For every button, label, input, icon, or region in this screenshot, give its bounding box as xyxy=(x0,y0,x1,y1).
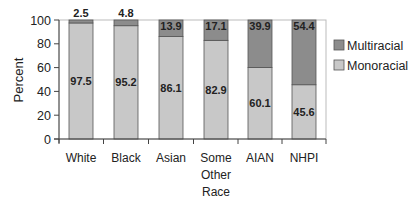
value-label-multiracial: 54.4 xyxy=(293,20,315,32)
y-tick-label: 20 xyxy=(37,109,51,123)
x-tick-label: AIAN xyxy=(246,151,274,165)
legend-label: Monoracial xyxy=(347,59,408,73)
value-label-monoracial: 45.6 xyxy=(293,106,314,118)
y-tick-label: 0 xyxy=(44,133,51,147)
bars-group: 97.52.595.24.886.113.982.917.160.139.945… xyxy=(69,7,316,139)
value-label-multiracial: 17.1 xyxy=(205,20,226,32)
legend-item-multiracial: Multiracial xyxy=(334,39,403,53)
plot-frame xyxy=(59,20,326,139)
y-axis-label: Percent xyxy=(11,57,26,102)
legend-swatch xyxy=(334,40,344,50)
bar-nhpi: 45.654.4 xyxy=(292,20,316,139)
bar-aian: 60.139.9 xyxy=(248,20,272,139)
x-tick-label: SomeOtherRace xyxy=(200,151,232,199)
legend: MultiracialMonoracial xyxy=(334,39,408,73)
legend-label: Multiracial xyxy=(347,39,403,53)
bar-white: 97.52.5 xyxy=(69,7,93,139)
y-tick-label: 60 xyxy=(37,61,51,75)
y-tick-label: 100 xyxy=(30,14,51,28)
value-label-monoracial: 97.5 xyxy=(70,75,91,87)
value-label-monoracial: 86.1 xyxy=(160,82,181,94)
y-tick-label: 40 xyxy=(37,85,51,99)
x-axis: WhiteBlackAsianSomeOtherRaceAIANNHPI xyxy=(54,139,326,199)
x-tick-label: White xyxy=(66,151,97,165)
y-tick-label: 80 xyxy=(37,37,51,51)
bar-black: 95.24.8 xyxy=(114,7,138,139)
bar-some-other-race: 82.917.1 xyxy=(204,20,228,139)
segment-multiracial xyxy=(114,20,138,26)
value-label-multiracial: 4.8 xyxy=(118,7,133,19)
x-tick-label: NHPI xyxy=(290,151,319,165)
value-label-monoracial: 60.1 xyxy=(249,97,270,109)
value-label-multiracial: 39.9 xyxy=(249,20,270,32)
y-axis: 020406080100 xyxy=(30,14,59,147)
plot-border xyxy=(59,20,326,139)
stacked-bar-chart: 97.52.595.24.886.113.982.917.160.139.945… xyxy=(0,0,412,204)
bar-asian: 86.113.9 xyxy=(159,20,183,139)
value-label-monoracial: 95.2 xyxy=(115,76,136,88)
value-label-multiracial: 2.5 xyxy=(73,7,88,19)
x-tick-label: Asian xyxy=(156,151,186,165)
legend-swatch xyxy=(334,60,344,70)
segment-multiracial xyxy=(69,20,93,23)
value-label-multiracial: 13.9 xyxy=(160,20,181,32)
legend-item-monoracial: Monoracial xyxy=(334,59,408,73)
x-tick-label: Black xyxy=(111,151,141,165)
value-label-monoracial: 82.9 xyxy=(205,84,226,96)
